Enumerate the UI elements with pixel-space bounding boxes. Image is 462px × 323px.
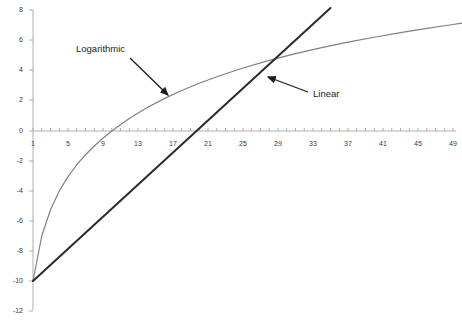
x-tick-label: 33 [303,140,323,147]
annotation-arrow-0 [130,58,168,95]
x-tick-label: 1 [23,140,43,147]
x-tick-label: 41 [373,140,393,147]
y-tick-label: 2 [1,96,23,103]
plot-area [0,0,462,323]
x-tick-label: 25 [233,140,253,147]
x-tick-label: 13 [128,140,148,147]
x-tick-label: 17 [163,140,183,147]
y-tick-label: -10 [1,277,23,284]
series-line-logarithmic [33,23,462,281]
chart-canvas: 8 6 4 2 0 -2 -4 -6 -8 -10 -12 1 5 9 13 1… [0,0,462,323]
annotation-arrow-1 [268,77,308,92]
y-tick-label: -4 [1,187,23,194]
y-tick-label: -2 [1,157,23,164]
x-tick-label: 29 [268,140,288,147]
x-tick-label: 45 [408,140,428,147]
x-tick-label: 49 [443,140,462,147]
x-tick-label: 9 [93,140,113,147]
x-tick-label: 5 [58,140,78,147]
y-tick-label: -6 [1,217,23,224]
y-tick-label: -8 [1,247,23,254]
y-tick-label: -12 [1,307,23,314]
y-tick-label: 8 [1,6,23,13]
x-tick-label: 37 [338,140,358,147]
y-tick-label: 6 [1,36,23,43]
y-tick-label: 4 [1,66,23,73]
y-tick-label: 0 [1,127,23,134]
y-axis-ticks [29,10,33,311]
x-tick-label: 21 [198,140,218,147]
annotation-label-logarithmic: Logarithmic [76,44,125,54]
annotation-label-linear: Linear [313,89,339,99]
